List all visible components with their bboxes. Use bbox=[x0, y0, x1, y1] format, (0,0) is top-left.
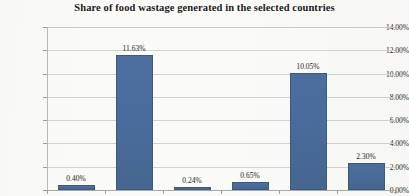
bar-value-label: 10.05% bbox=[296, 62, 319, 71]
x-axis-tick-mark bbox=[105, 190, 106, 194]
x-axis-tick-mark bbox=[163, 190, 164, 194]
bar-value-label: 0.65% bbox=[240, 171, 259, 180]
bar-chart: Share of food wastage generated in the s… bbox=[0, 0, 409, 196]
x-axis-tick-mark bbox=[279, 190, 280, 194]
bar-value-label: 11.63% bbox=[123, 44, 146, 53]
bar[interactable] bbox=[174, 187, 211, 190]
bar-value-label: 0.24% bbox=[182, 176, 201, 185]
x-axis-tick-mark bbox=[47, 190, 48, 194]
bar-value-label: 2.30% bbox=[356, 152, 375, 161]
plot-area bbox=[47, 27, 395, 190]
chart-title: Share of food wastage generated in the s… bbox=[0, 2, 409, 13]
bar[interactable] bbox=[232, 182, 269, 190]
x-axis-tick-mark bbox=[337, 190, 338, 194]
bar[interactable] bbox=[290, 73, 327, 190]
x-axis-tick-mark bbox=[395, 190, 396, 194]
x-axis-tick-mark bbox=[221, 190, 222, 194]
bar-value-label: 0.40% bbox=[66, 174, 85, 183]
bar[interactable] bbox=[348, 163, 385, 190]
bar[interactable] bbox=[58, 185, 95, 190]
bar[interactable] bbox=[116, 55, 153, 190]
